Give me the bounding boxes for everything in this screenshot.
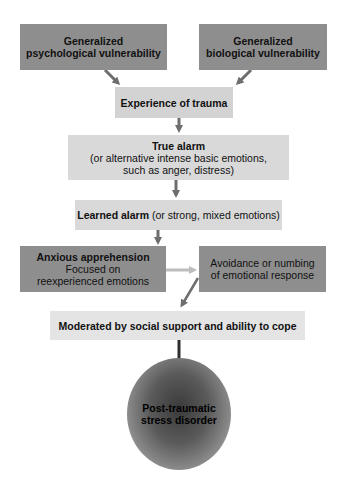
- node-text: (or strong, mixed emotions): [149, 209, 280, 221]
- node-title: True alarm: [152, 140, 205, 152]
- node-text-line: psychological vulnerability: [26, 47, 161, 59]
- node-true-alarm: True alarm (or alternative intense basic…: [68, 135, 289, 180]
- node-biological-vulnerability: Generalized biological vulnerability: [199, 24, 327, 70]
- node-text: Experience of trauma: [121, 97, 228, 109]
- node-learned-alarm: Learned alarm (or strong, mixed emotions…: [75, 200, 282, 230]
- node-anxious-apprehension: Anxious apprehension Focused on reexperi…: [20, 246, 166, 292]
- node-text-line: Focused on: [66, 263, 121, 275]
- node-ptsd: Post-traumatic stress disorder: [127, 358, 231, 470]
- node-text-line: (or alternative intense basic emotions,: [90, 152, 267, 164]
- arrow-bio-to-trauma: [238, 70, 251, 83]
- node-text-line: such as anger, distress): [123, 164, 234, 176]
- node-text-line: reexperienced emotions: [37, 275, 149, 287]
- arrow-psych-to-trauma: [105, 70, 118, 83]
- node-text: Moderated by social support and ability …: [58, 320, 296, 332]
- node-text-line: biological vulnerability: [206, 47, 320, 59]
- node-text-line: Avoidance or numbing: [210, 257, 314, 269]
- node-text-line: Generalized: [233, 35, 293, 47]
- node-moderated-by-support: Moderated by social support and ability …: [50, 311, 305, 340]
- node-text-line: stress disorder: [141, 414, 217, 426]
- node-text-line: of emotional response: [211, 269, 314, 281]
- node-avoidance-numbing: Avoidance or numbing of emotional respon…: [199, 246, 326, 292]
- node-text-line: Post-traumatic: [142, 402, 216, 414]
- node-title: Learned alarm: [77, 209, 149, 221]
- node-text-line: Generalized: [64, 35, 124, 47]
- node-title: Anxious apprehension: [36, 251, 149, 263]
- node-psychological-vulnerability: Generalized psychological vulnerability: [20, 24, 167, 70]
- node-experience-of-trauma: Experience of trauma: [115, 87, 233, 118]
- arrow-avoidance-to-moderated: [182, 278, 198, 305]
